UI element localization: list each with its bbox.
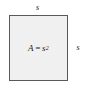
area-formula: A = s2	[10, 16, 67, 80]
square-shape: A = s2	[9, 15, 68, 81]
square-area-figure: s A = s2 s	[0, 0, 87, 90]
top-side-length-label: s	[0, 4, 75, 12]
right-side-length-label: s	[72, 44, 84, 52]
equals-sign: =	[34, 44, 42, 53]
